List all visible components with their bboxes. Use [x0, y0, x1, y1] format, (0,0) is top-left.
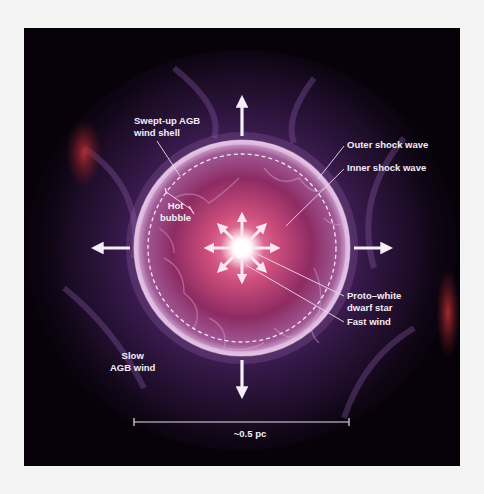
label-swept-up-shell: Swept-up AGB wind shell — [134, 115, 200, 138]
red-filament-right — [436, 268, 460, 358]
label-slow-agb-wind: Slow AGB wind — [110, 350, 155, 373]
label-fast-wind: Fast wind — [347, 316, 391, 328]
label-hot-bubble: Hot bubble — [160, 200, 191, 223]
label-proto-white-dwarf: Proto–white dwarf star — [347, 290, 401, 313]
nebula-illustration — [24, 28, 460, 466]
label-inner-shock-wave: Inner shock wave — [347, 162, 426, 174]
label-outer-shock-wave: Outer shock wave — [347, 139, 428, 151]
diagram-panel: Swept-up AGB wind shell Hot bubble Outer… — [24, 28, 460, 466]
scale-bar-label: ~0.5 pc — [220, 428, 280, 440]
red-filament-left — [66, 119, 102, 187]
